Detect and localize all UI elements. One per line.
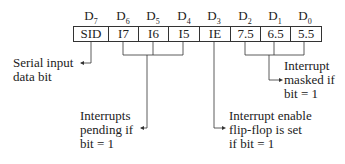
note-interrupt-masked: Interrupt masked if bit = 1 [284,59,335,101]
note-interrupt-enable: Interrupt enable flip-flop is set if bit… [229,109,312,151]
note-interrupts-pending: Interrupts pending if bit = 1 [80,109,133,151]
note-serial-input: Serial input data bit [13,56,73,84]
